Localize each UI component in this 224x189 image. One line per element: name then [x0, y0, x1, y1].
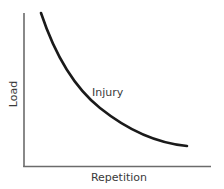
x-axis-label: Repetition — [91, 171, 147, 184]
y-axis-label: Load — [7, 81, 20, 107]
injury-curve — [41, 13, 187, 146]
curve-annotation-injury: Injury — [92, 86, 124, 99]
load-repetition-chart: Injury Repetition Load — [0, 0, 224, 189]
